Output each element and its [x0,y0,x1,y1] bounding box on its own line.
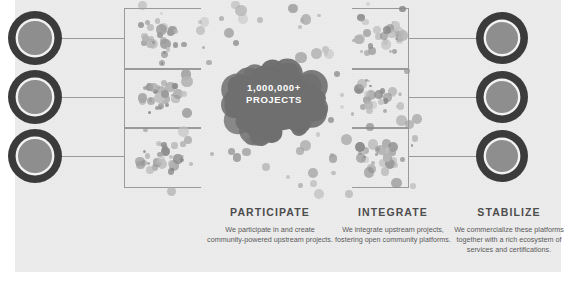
scatter-dot [381,167,390,176]
column-heading: STABILIZE [452,206,566,218]
scatter-dot [156,141,161,146]
scatter-dot [412,114,422,124]
scatter-dot [412,135,419,142]
scatter-dot [360,50,363,53]
scatter-dot [330,153,334,157]
scatter-dot [396,115,407,126]
scatter-dot [392,49,397,54]
scatter-dot [301,14,312,25]
scatter-dot [178,126,189,137]
scatter-dot [364,91,369,96]
scatter-dot [383,109,387,113]
scatter-dot [364,167,375,178]
scatter-dot [138,22,144,28]
scatter-dot [345,190,353,198]
scatter-dot [167,29,174,36]
scatter-dot [206,60,211,65]
scatter-dot [145,153,151,159]
column-integrate: INTEGRATE We integrate upstream projects… [334,206,452,245]
scatter-dot [146,166,153,173]
scatter-dot [235,5,246,16]
scatter-dot [180,141,186,147]
scatter-dot [366,2,370,6]
column-body: We integrate upstream projects, fosterin… [334,225,452,245]
scatter-dot [357,79,368,90]
scatter-dot [383,26,391,34]
scatter-dot [398,30,409,41]
scatter-dot [371,161,375,165]
scatter-dot [389,50,392,53]
scatter-dot [182,108,192,118]
scatter-dot [148,111,151,114]
scatter-dot [158,103,165,110]
scatter-dot [233,153,241,161]
scatter-dot [233,40,239,46]
scatter-dot [341,134,352,145]
scatter-dot [369,85,371,87]
scatter-dot [147,162,150,165]
scatter-dot [364,101,372,109]
scatter-dot [173,42,179,48]
column-body: We participate in and create community-p… [207,225,333,245]
center-label-line2: PROJECTS [212,94,336,106]
scatter-dot [310,180,317,187]
scatter-dot [155,18,160,23]
scatter-dot [314,189,324,199]
column-heading: PARTICIPATE [207,206,333,218]
scatter-dot [161,51,168,58]
scatter-dot [166,47,171,52]
scatter-dot [160,12,163,15]
scatter-dot [404,68,410,74]
scatter-dot [149,83,158,92]
scatter-dot [286,175,290,179]
scatter-dot [340,93,344,97]
scatter-dot [210,152,214,156]
column-heading: INTEGRATE [334,206,452,218]
scatter-dot [391,178,401,188]
scatter-dot [354,35,364,45]
scatter-dot [224,28,234,38]
scatter-dot [317,14,321,18]
scatter-dot [399,6,406,13]
scatter-dot [400,157,405,162]
scatter-dot [143,128,147,132]
column-stabilize: STABILIZE We commercialize these platfor… [452,206,566,256]
scatter-dot [380,88,386,94]
scatter-dot [331,171,335,175]
scatter-dot [145,20,150,25]
scatter-dot [392,94,395,97]
scatter-dot [393,163,398,168]
scatter-dot [173,154,182,163]
scatter-dot [161,62,164,65]
scatter-dot [308,168,318,178]
scatter-dot [158,156,165,163]
scatter-dot [262,163,271,172]
column-participate: PARTICIPATE We participate in and create… [207,206,333,245]
scatter-dot [219,16,224,21]
scatter-dot [298,183,303,188]
scatter-dot [298,25,302,29]
scatter-dot [156,24,167,35]
scatter-dot [364,50,370,56]
scatter-dot [138,93,148,103]
scatter-dot [368,80,371,83]
scatter-dot [340,105,344,109]
scatter-dot [356,89,360,93]
scatter-dot [136,161,145,170]
scatter-dot [167,187,176,196]
scatter-dot [169,155,173,159]
scatter-dot [138,1,147,10]
scatter-dot [152,41,155,44]
column-body: We commercialize these platforms togethe… [452,225,566,256]
scatter-dot [380,145,390,155]
center-label-line1: 1,000,000+ [212,82,336,94]
scatter-dot [198,20,201,23]
scatter-dot [147,24,154,31]
scatter-dot [196,26,206,36]
scatter-dot [181,91,187,97]
infographic-canvas: 1,000,000+ PROJECTS PARTICIPATE We parti… [0,0,575,291]
scatter-dot [288,4,297,13]
scatter-dot [202,46,205,49]
scatter-dot [171,142,178,149]
scatter-dot [381,39,392,50]
